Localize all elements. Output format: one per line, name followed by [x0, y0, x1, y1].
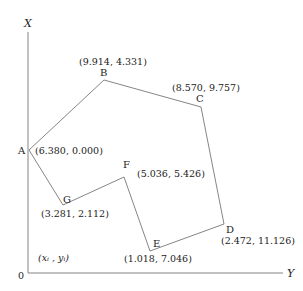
origin-label: 0 [18, 270, 24, 281]
traverse-diagram: X Y 0 A (6.380, 0.000) (9.914, 4.331) B … [0, 0, 303, 291]
point-coord-d: (2.472, 11.126) [221, 235, 295, 246]
point-label-c: C [196, 93, 204, 104]
point-label-g: G [63, 194, 71, 205]
point-label-f: F [123, 159, 130, 170]
point-label-a: A [17, 145, 26, 156]
point-label-e: E [153, 238, 160, 249]
x-axis-label: X [23, 17, 33, 30]
point-coord-e: (1.018, 7.046) [124, 253, 192, 264]
point-coord-a: (6.380, 0.000) [35, 145, 103, 156]
y-axis-label: Y [287, 267, 296, 280]
generic-coord-label: (xᵢ , yᵢ) [38, 252, 69, 263]
point-coord-b: (9.914, 4.331) [79, 56, 147, 67]
point-coord-g: (3.281, 2.112) [41, 208, 109, 219]
point-label-b: B [100, 67, 107, 78]
point-label-d: D [226, 224, 234, 235]
point-coord-c: (8.570, 9.757) [172, 82, 240, 93]
point-coord-f: (5.036, 5.426) [137, 168, 205, 179]
